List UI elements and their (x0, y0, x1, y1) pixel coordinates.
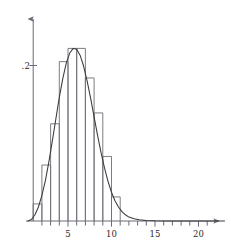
y-tick-label-0: .2 (21, 61, 30, 70)
x-tick-label-1: 10 (106, 230, 117, 239)
histogram-bars (33, 48, 120, 221)
x-tick-label-0: 5 (65, 230, 71, 239)
density-curve (28, 48, 225, 221)
chart-canvas (0, 0, 231, 247)
axes-group (26, 19, 219, 221)
x-axis-minor-ticks (42, 221, 207, 227)
histogram-chart: .2 5 10 15 20 (0, 0, 231, 247)
x-tick-label-3: 20 (193, 230, 204, 239)
x-tick-label-2: 15 (149, 230, 160, 239)
bar-outline (33, 48, 120, 221)
